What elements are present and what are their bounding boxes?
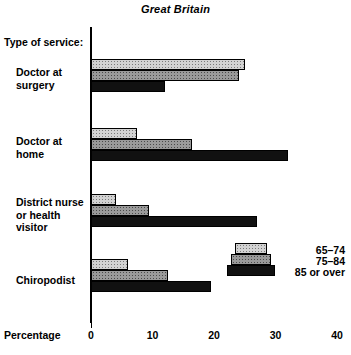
bar-1-0 <box>91 70 239 81</box>
bar-0-2 <box>91 194 116 205</box>
x-tick-label-40: 40 <box>322 329 351 341</box>
bar-2-3 <box>91 281 211 292</box>
x-tick-label-20: 20 <box>199 329 229 341</box>
bar-0-1 <box>91 128 137 139</box>
x-axis-tick-zero <box>91 323 93 328</box>
bar-chart: Great Britain Type of service: Doctor at… <box>0 0 351 355</box>
bar-2-2 <box>91 216 257 227</box>
category-label-1: Doctor at home <box>16 135 62 160</box>
bar-0-0 <box>91 59 245 70</box>
category-axis-header: Type of service: <box>4 36 83 48</box>
x-tick-label-0: 0 <box>76 329 106 341</box>
bar-1-2 <box>91 205 149 216</box>
x-tick-label-30: 30 <box>261 329 291 341</box>
x-tick-label-10: 10 <box>138 329 168 341</box>
category-label-2: District nurse or health visitor <box>16 196 84 234</box>
legend-label-2: 85 or over <box>0 266 345 278</box>
x-axis-caption: Percentage <box>4 329 61 341</box>
category-label-0: Doctor at surgery <box>16 66 62 91</box>
chart-title: Great Britain <box>0 3 351 15</box>
bar-1-1 <box>91 139 192 150</box>
bar-2-0 <box>91 81 165 92</box>
bar-2-1 <box>91 150 288 161</box>
